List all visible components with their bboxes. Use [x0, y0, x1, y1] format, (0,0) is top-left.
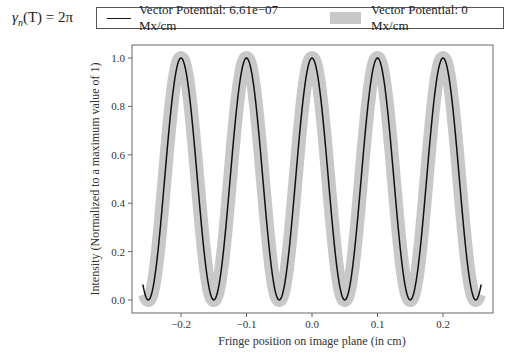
intensity-chart: −0.2−0.10.00.10.2 0.00.20.40.60.81.0 Fri… [0, 0, 512, 357]
x-tick-label: 0.0 [305, 318, 319, 330]
plot-area [143, 58, 481, 300]
x-tick-label: 0.2 [436, 318, 450, 330]
x-tick-label: 0.1 [371, 318, 385, 330]
x-axis-label: Fringe position on image plane (in cm) [218, 334, 405, 348]
series-zero-potential [145, 58, 479, 300]
x-axis-ticks: −0.2−0.10.00.10.2 [171, 313, 450, 330]
y-tick-label: 0.2 [111, 246, 125, 258]
y-axis-label: Intensity (Normalized to a maximum value… [88, 63, 102, 296]
y-tick-label: 1.0 [111, 52, 125, 64]
x-tick-label: −0.2 [171, 318, 191, 330]
x-tick-label: −0.1 [237, 318, 257, 330]
y-tick-label: 0.0 [111, 294, 125, 306]
y-tick-label: 0.8 [111, 100, 125, 112]
y-axis-ticks: 0.00.20.40.60.81.0 [111, 52, 132, 306]
y-tick-label: 0.6 [111, 149, 125, 161]
y-tick-label: 0.4 [111, 197, 125, 209]
